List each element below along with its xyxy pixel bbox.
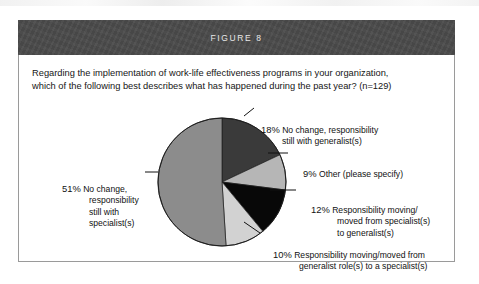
callout-12-line-3: to generalist(s) [311, 228, 430, 239]
callout-9: 9% Other (please specify) [303, 168, 403, 180]
callout-51-line-1: No change, [83, 184, 127, 194]
scan-artifact-line [0, 0, 479, 6]
callout-51: 51% No change, responsibility still with… [62, 183, 139, 230]
callout-51-line-3: still with [62, 207, 139, 218]
callout-9-line-1: Other (please specify) [319, 169, 403, 179]
callout-12-pct: 12% [311, 204, 330, 215]
callout-12-line-1: Responsibility moving/ [332, 205, 418, 215]
callout-18-line-2: still with generalist(s) [261, 136, 378, 147]
pie-chart-stage: 18% No change, responsibility still with… [18, 20, 455, 262]
callout-18-line-1: No change, responsibility [282, 125, 378, 135]
callout-12: 12% Responsibility moving/ moved from sp… [311, 204, 430, 239]
callout-51-line-2: responsibility [62, 195, 139, 206]
callout-10-line-2: generalist role(s) to a specialist(s) [273, 261, 427, 272]
callout-18-pct: 18% [261, 124, 280, 135]
callout-12-line-2: moved from specialist(s) [311, 216, 430, 227]
callout-18: 18% No change, responsibility still with… [261, 124, 378, 148]
leader-line-18 [244, 108, 254, 116]
callout-10-line-1: Responsibility moving/moved from [294, 250, 425, 260]
figure-title: FIGURE 8 [210, 33, 262, 43]
callout-10: 10% Responsibility moving/moved from gen… [273, 249, 427, 273]
callout-9-pct: 9% [303, 168, 317, 179]
pie-slice-51 [158, 118, 226, 246]
callout-51-line-4: specialist(s) [62, 218, 139, 229]
callout-10-pct: 10% [273, 249, 292, 260]
callout-51-pct: 51% [62, 183, 81, 194]
